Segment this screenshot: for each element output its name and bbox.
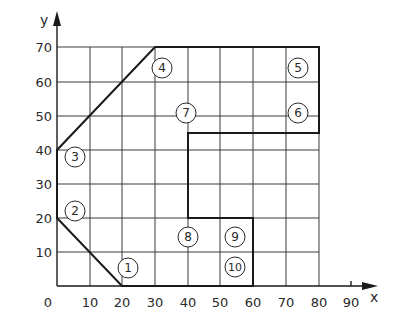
y-tick: 70 [35, 40, 52, 55]
x-tick: 70 [278, 295, 295, 310]
y-tick-labels: 10 20 30 40 50 60 70 [35, 40, 52, 260]
x-tick: 30 [147, 295, 164, 310]
y-tick: 50 [35, 109, 52, 124]
x-tick: 10 [82, 295, 99, 310]
x-tick-labels: 0 10 20 30 40 50 60 70 80 90 [44, 295, 359, 310]
point-label-5: 5 [294, 61, 302, 75]
y-axis-arrow-icon [53, 11, 61, 26]
x-tick: 20 [114, 295, 131, 310]
x-tick: 60 [245, 295, 262, 310]
point-label-9: 9 [231, 230, 239, 244]
y-tick: 30 [35, 177, 52, 192]
x-tick: 50 [212, 295, 229, 310]
y-tick: 10 [35, 245, 52, 260]
y-tick: 20 [35, 211, 52, 226]
point-labels [65, 58, 308, 278]
x-tick: 80 [311, 295, 328, 310]
y-axis-label: y [40, 12, 48, 28]
point-label-6: 6 [294, 106, 302, 120]
point-label-8: 8 [184, 230, 192, 244]
point-label-2: 2 [71, 204, 79, 218]
x-tick: 0 [44, 295, 52, 310]
y-tick: 40 [35, 143, 52, 158]
x-tick: 40 [180, 295, 197, 310]
point-label-10: 10 [228, 261, 242, 274]
y-tick: 60 [35, 75, 52, 90]
point-label-texts: 1 2 3 4 5 6 7 8 9 10 [71, 61, 302, 275]
coordinate-diagram: 0 10 20 30 40 50 60 70 80 90 x 10 20 30 … [0, 0, 412, 327]
x-tick: 90 [343, 295, 360, 310]
point-label-1: 1 [124, 261, 132, 275]
point-label-4: 4 [158, 61, 166, 75]
x-axis-label: x [370, 289, 378, 305]
point-label-3: 3 [71, 150, 79, 164]
point-label-7: 7 [182, 106, 190, 120]
